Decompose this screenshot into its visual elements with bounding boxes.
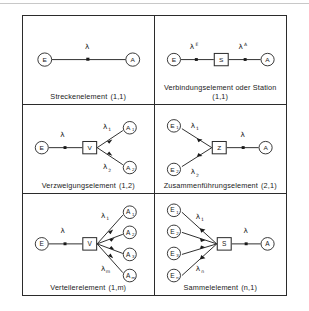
node-output-label: A xyxy=(126,272,131,279)
caption-verbindungselement: Verbindungselement oder Station (1,1) xyxy=(155,83,287,101)
caption-text: Sammelelement xyxy=(184,283,239,292)
diagram-sammelelement: E 1 E 2 E 3 E n S A λ 1 λ n λ xyxy=(155,194,287,295)
node-input-label: E xyxy=(43,56,47,63)
rate-label-lambda: λ xyxy=(240,131,245,140)
cell-zusammenfuehrungselement: E 1 E 2 Z A λ 1 λ 2 λ Zusammenführungsel… xyxy=(155,105,287,194)
rate-sub-1: 1 xyxy=(200,218,203,223)
rate-label-lambda-a: λ xyxy=(238,42,243,51)
node-center-label: Z xyxy=(217,144,221,151)
caption-zusammenfuehrungselement: Zusammenführungselement(2,1) xyxy=(155,181,287,190)
rate-sub-2: 2 xyxy=(108,168,111,173)
cell-sammelelement: E 1 E 2 E 3 E n S A λ 1 λ n λ xyxy=(155,194,287,295)
diagram-verteilerelement: E V A 1 A 2 A 3 A m λ λ 1 λ m xyxy=(23,194,154,295)
caption-streckenelement: Streckenelement(1,1) xyxy=(23,92,154,101)
caption-code: (1,1) xyxy=(110,92,126,101)
element-types-figure: E A λ Streckenelement(1,1) E S A xyxy=(22,15,287,296)
rate-sub-2: 2 xyxy=(195,173,198,178)
caption-sammelelement: Sammelelement(n,1) xyxy=(155,283,287,292)
node-input-label: E xyxy=(40,240,44,247)
node-output-label: A xyxy=(126,124,131,131)
rate-sub-1: 1 xyxy=(195,126,198,131)
node-input-label: E xyxy=(170,166,174,173)
node-center-label: S xyxy=(222,240,226,247)
rate-sub-n: n xyxy=(201,270,204,275)
node-center-label: V xyxy=(88,144,93,151)
caption-code: (1,1) xyxy=(155,92,287,101)
diagram-zusammenfuehrungselement: E 1 E 2 Z A λ 1 λ 2 λ xyxy=(155,105,287,193)
node-input-label: E xyxy=(170,207,175,214)
cell-streckenelement: E A λ Streckenelement(1,1) xyxy=(23,16,155,105)
caption-code: (1,m) xyxy=(108,283,126,292)
caption-code: (2,1) xyxy=(261,181,277,190)
rate-sub-m: m xyxy=(106,270,110,275)
caption-verzweigungselement: Verzweigungselement(1,2) xyxy=(23,181,154,190)
node-input-label: E xyxy=(40,144,44,151)
node-center-label: S xyxy=(219,56,223,63)
caption-code: (1,2) xyxy=(119,181,135,190)
caption-verteilerelement: Verteilerelement(1,m) xyxy=(23,283,154,292)
node-input-label: E xyxy=(170,122,174,129)
node-output-label: A xyxy=(263,144,268,151)
node-center-label: V xyxy=(88,240,93,247)
rate-sup-a: A xyxy=(244,42,248,47)
diagram-verzweigungselement: E V A 1 A 2 λ λ 1 λ 2 xyxy=(23,105,154,193)
node-output-label: A xyxy=(131,56,136,63)
rate-label-lambda: λ xyxy=(60,227,65,236)
node-output-label: A xyxy=(126,229,131,236)
node-input-label: E xyxy=(170,272,175,279)
rate-sub-1: 1 xyxy=(108,127,111,132)
node-input-label: E xyxy=(170,228,175,235)
caption-text: Verteilerelement xyxy=(50,283,105,292)
cell-verteilerelement: E V A 1 A 2 A 3 A m λ λ 1 λ m xyxy=(23,194,155,295)
node-input-label: E xyxy=(171,56,175,63)
caption-text: Zusammenführungselement xyxy=(164,181,258,190)
caption-text: Verzweigungselement xyxy=(42,181,116,190)
node-output-label: A xyxy=(126,164,131,171)
rate-label-lambda-n: λ xyxy=(195,264,200,273)
rate-label-lambda-e: λ xyxy=(189,42,194,51)
node-output-sub: m xyxy=(132,275,136,280)
node-output-label: A xyxy=(126,209,131,216)
caption-text: Verbindungselement oder Station xyxy=(164,83,277,92)
scan-artifact-line xyxy=(0,3,309,4)
diagram-streckenelement: E A λ xyxy=(23,16,154,104)
caption-text: Streckenelement xyxy=(50,92,107,101)
node-input-label: E xyxy=(170,250,175,257)
node-output-label: A xyxy=(126,251,131,258)
rate-sub-1: 1 xyxy=(106,217,109,222)
caption-code: (n,1) xyxy=(241,283,257,292)
node-output-label: A xyxy=(265,240,270,247)
rate-label-lambda: λ xyxy=(85,42,90,51)
cell-verzweigungselement: E V A 1 A 2 λ λ 1 λ 2 Verzweigungselemen… xyxy=(23,105,155,194)
rate-label-lambda: λ xyxy=(243,227,248,236)
rate-label-lambda: λ xyxy=(60,130,65,139)
rate-sup-e: E xyxy=(195,42,198,47)
cell-verbindungselement: E S A λ E λ A Verbindungselement oder St… xyxy=(155,16,287,105)
node-output-label: A xyxy=(265,56,270,63)
